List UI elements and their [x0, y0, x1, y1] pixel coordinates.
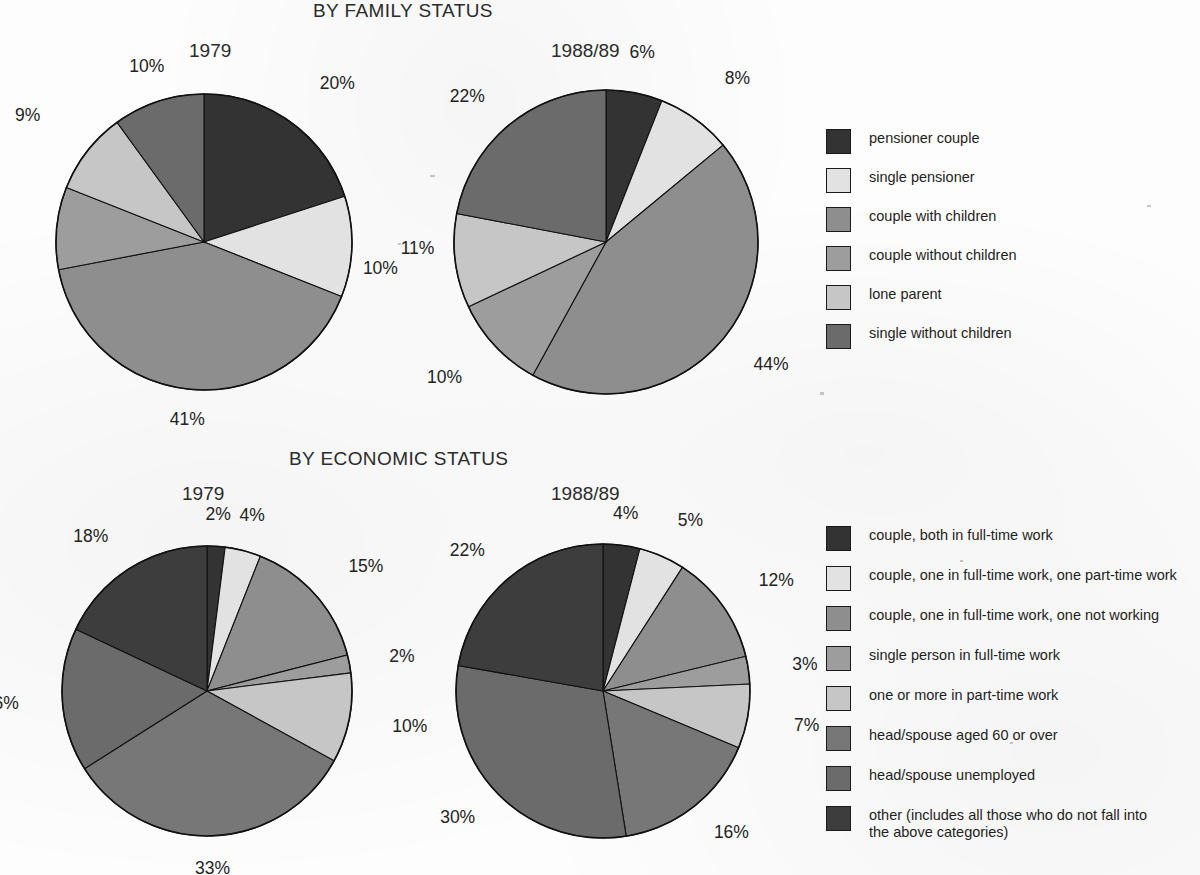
legend-item: head/spouse aged 60 or over: [826, 725, 1177, 765]
pie-slice-value-label: 15%: [348, 556, 383, 576]
legend-swatch-icon: [826, 246, 851, 271]
legend-item: single without children: [826, 323, 1017, 362]
pie-slice-value-label: 10%: [129, 56, 164, 76]
legend-item-label: couple, one in full-time work, one part-…: [869, 565, 1177, 584]
legend-item: pensioner couple: [826, 128, 1017, 167]
pie-slice-value-label: 44%: [754, 354, 789, 374]
legend-family-status: pensioner couplesingle pensionercouple w…: [826, 128, 1017, 362]
pie-slice-value-label: 4%: [613, 503, 638, 523]
scan-speck: [430, 175, 435, 177]
pie-slice-value-label: 18%: [73, 526, 108, 546]
legend-swatch-icon: [826, 646, 851, 671]
pie-slice-value-label: 30%: [440, 807, 475, 827]
legend-swatch-icon: [826, 726, 851, 751]
pie-slice-value-label: 12%: [759, 570, 794, 590]
legend-item-label: couple, one in full-time work, one not w…: [869, 605, 1159, 624]
pie-chart-family-1979: 20%11%41%9%9%10%: [0, 24, 422, 460]
scan-speck: [1147, 205, 1151, 207]
legend-swatch-icon: [826, 207, 851, 232]
legend-item: couple, one in full-time work, one not w…: [826, 605, 1177, 645]
legend-item-label: lone parent: [869, 284, 942, 303]
pie-slice: [458, 544, 603, 691]
legend-item-label: single without children: [869, 323, 1012, 342]
pie-slice-value-label: 20%: [320, 73, 355, 93]
legend-item-label: single pensioner: [869, 167, 975, 186]
section-title-family-status: BY FAMILY STATUS: [313, 0, 493, 22]
legend-swatch-icon: [826, 324, 851, 349]
pie-slice-value-label: 16%: [0, 693, 19, 713]
scan-speck: [1010, 742, 1013, 744]
legend-item: one or more in part-time work: [826, 685, 1177, 725]
legend-economic-status: couple, both in full-time workcouple, on…: [826, 525, 1177, 845]
legend-item: couple with children: [826, 206, 1017, 245]
legend-item: single pensioner: [826, 167, 1017, 206]
pie-slice-value-label: 4%: [239, 505, 264, 525]
pie-slice-value-label: 33%: [195, 858, 230, 875]
scan-speck: [398, 243, 401, 245]
legend-item: head/spouse unemployed: [826, 765, 1177, 805]
pie-slice-value-label: 8%: [725, 68, 750, 88]
pie-slice-value-label: 5%: [678, 510, 703, 530]
legend-item-label: couple without children: [869, 245, 1017, 264]
pie-slice-value-label: 16%: [714, 822, 749, 842]
pie-chart-family-1988: 6%8%44%10%10%22%: [384, 20, 828, 464]
pie-slice: [456, 665, 626, 838]
legend-item-label: head/spouse aged 60 or over: [869, 725, 1058, 744]
scan-speck: [820, 392, 824, 395]
legend-swatch-icon: [826, 806, 851, 831]
legend-swatch-icon: [826, 686, 851, 711]
legend-item-label: other (includes all those who do not fal…: [869, 805, 1147, 841]
legend-item-label: couple with children: [869, 206, 996, 225]
legend-item-label: single person in full-time work: [869, 645, 1060, 664]
pie-slice-value-label: 10%: [427, 367, 462, 387]
legend-item: other (includes all those who do not fal…: [826, 805, 1177, 845]
legend-swatch-icon: [826, 766, 851, 791]
pie-chart-economic-1988: 4%5%12%3%7%16%30%22%: [386, 474, 820, 875]
legend-item: couple, both in full-time work: [826, 525, 1177, 565]
pie-slice-value-label: 9%: [15, 105, 40, 125]
pie-slice-value-label: 41%: [170, 409, 205, 429]
legend-swatch-icon: [826, 129, 851, 154]
legend-item-label: head/spouse unemployed: [869, 765, 1035, 784]
pie-chart-economic-1979: 2%4%15%2%10%33%16%18%: [0, 476, 422, 875]
pie-slice-value-label: 6%: [630, 42, 655, 62]
legend-item-label: couple, both in full-time work: [869, 525, 1053, 544]
legend-swatch-icon: [826, 566, 851, 591]
pie-slice-value-label: 22%: [450, 86, 485, 106]
pie-slice-value-label: 10%: [363, 258, 398, 278]
legend-item: couple, one in full-time work, one part-…: [826, 565, 1177, 605]
pie-slice-value-label: 3%: [792, 654, 817, 674]
section-title-economic-status: BY ECONOMIC STATUS: [289, 448, 508, 470]
legend-item: lone parent: [826, 284, 1017, 323]
legend-item: single person in full-time work: [826, 645, 1177, 685]
legend-swatch-icon: [826, 168, 851, 193]
pie-slice-value-label: 22%: [450, 540, 485, 560]
legend-swatch-icon: [826, 606, 851, 631]
legend-item-label: one or more in part-time work: [869, 685, 1058, 704]
legend-item-label: pensioner couple: [869, 128, 979, 147]
legend-swatch-icon: [826, 285, 851, 310]
scan-speck: [960, 560, 963, 562]
figure-page: BY FAMILY STATUS 1979 1988/89 20%11%41%9…: [0, 0, 1200, 875]
legend-item: couple without children: [826, 245, 1017, 284]
legend-swatch-icon: [826, 526, 851, 551]
pie-slice-value-label: 7%: [794, 715, 819, 735]
pie-slice-value-label: 2%: [205, 504, 230, 524]
